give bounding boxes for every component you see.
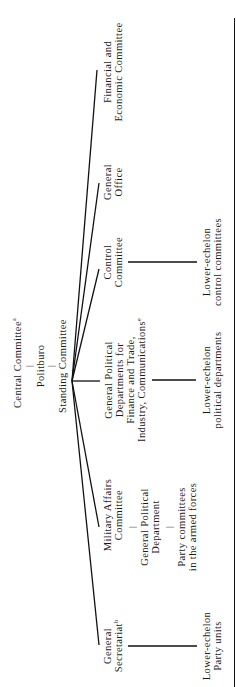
standing-committee-label: Standing Committee — [57, 319, 68, 413]
org-chart: Central Committeea | Politburo | Standin… — [0, 0, 236, 687]
footnote-a: a — [11, 318, 17, 321]
line-to-military — [72, 381, 99, 527]
footnote-b: b — [113, 620, 119, 623]
politburo-label: Politburo — [35, 345, 46, 388]
central-committee-label: Central Committee — [12, 321, 23, 408]
line-to-secretariat — [72, 381, 99, 645]
footnote-e: e — [136, 318, 142, 321]
